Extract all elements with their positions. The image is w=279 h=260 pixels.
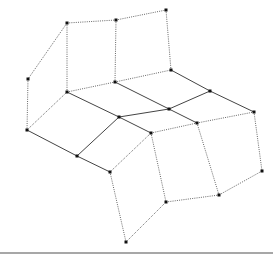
solid-edge-K-I — [77, 117, 119, 156]
solid-edge-I-P2 — [119, 117, 151, 133]
dotted-edge-A-B — [67, 20, 116, 23]
vertex-B — [115, 19, 118, 22]
solid-edge-E-I — [67, 92, 119, 117]
vertex-P2 — [150, 132, 153, 135]
dotted-edges — [27, 10, 262, 242]
dotted-edge-B-C — [116, 10, 166, 20]
dotted-edge-B-F — [115, 20, 116, 82]
dotted-edge-N-S — [110, 172, 126, 242]
vertex-Q — [218, 194, 221, 197]
dotted-edge-M-R — [254, 112, 262, 171]
solid-edges — [27, 70, 254, 172]
vertex-K — [76, 155, 79, 158]
vertex-F — [114, 81, 117, 84]
dotted-edge-D-H — [27, 79, 28, 130]
vertex-L — [168, 108, 171, 111]
dotted-edge-S-P — [126, 202, 166, 242]
vertex-J — [209, 90, 212, 93]
vertex-P — [165, 201, 168, 204]
dotted-edge-P2-P — [151, 133, 166, 202]
vertex-S — [125, 241, 128, 244]
solid-edge-F-L — [115, 82, 169, 109]
vertex-E — [66, 91, 69, 94]
vertex-I — [118, 116, 121, 119]
dotted-edge-E-F — [67, 82, 115, 92]
dotted-edge-A-D — [28, 23, 67, 79]
dotted-edge-F-G — [115, 70, 171, 82]
vertex-O — [196, 122, 199, 125]
dotted-edge-O-M — [197, 112, 254, 123]
folded-mesh-diagram — [0, 0, 279, 260]
solid-edge-J-M — [210, 91, 254, 112]
vertex-M — [253, 111, 256, 114]
solid-edge-I-L — [119, 109, 169, 117]
vertices — [26, 9, 264, 244]
vertex-R — [261, 170, 264, 173]
vertex-N — [109, 171, 112, 174]
solid-edge-H-K — [27, 130, 77, 156]
solid-edge-L-J — [169, 91, 210, 109]
dotted-edge-N-P2 — [110, 133, 151, 172]
vertex-G — [170, 69, 173, 72]
dotted-edge-H-E — [27, 92, 67, 130]
solid-edge-G-J — [171, 70, 210, 91]
vertex-C — [165, 9, 168, 12]
vertex-D — [27, 78, 30, 81]
solid-edge-L-O — [169, 109, 197, 123]
vertex-A — [66, 22, 69, 25]
dotted-edge-P-Q — [166, 195, 219, 202]
dotted-edge-C-G — [166, 10, 171, 70]
solid-edge-K-N — [77, 156, 110, 172]
dotted-edge-Q-R — [219, 171, 262, 195]
vertex-H — [26, 129, 29, 132]
dotted-edge-O-Q — [197, 123, 219, 195]
dotted-edge-P2-O — [151, 123, 197, 133]
